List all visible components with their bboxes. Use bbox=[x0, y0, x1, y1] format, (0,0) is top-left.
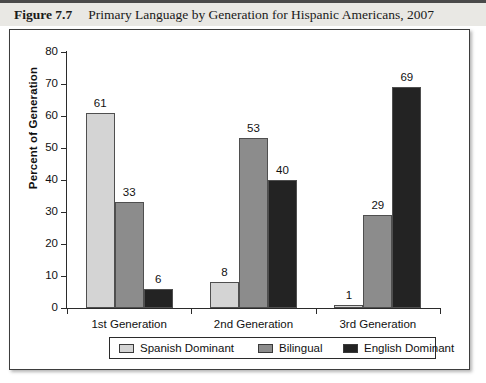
x-axis-tick bbox=[440, 309, 441, 314]
bar-value-label: 69 bbox=[384, 71, 429, 83]
figure-title: Primary Language by Generation for Hispa… bbox=[88, 7, 434, 22]
legend-label: Bilingual bbox=[279, 343, 322, 355]
x-axis-category-label: 1st Generation bbox=[67, 318, 191, 330]
y-axis-tick-label: 20 bbox=[28, 238, 58, 250]
y-axis-tick-label: 60 bbox=[28, 110, 58, 122]
bar bbox=[144, 289, 173, 308]
figure-caption-text: Figure 7.7Primary Language by Generation… bbox=[14, 7, 434, 23]
y-axis-tick-label: 40 bbox=[28, 174, 58, 186]
bar-value-label: 53 bbox=[231, 122, 276, 134]
legend-color-swatch bbox=[119, 344, 134, 353]
y-axis-tick-label: 70 bbox=[28, 78, 58, 90]
bar-value-label: 40 bbox=[260, 164, 305, 176]
bar bbox=[334, 305, 363, 308]
bar bbox=[210, 282, 239, 308]
legend-color-swatch bbox=[258, 344, 273, 353]
legend-entry[interactable]: English Dominant bbox=[343, 341, 454, 356]
bar bbox=[115, 202, 144, 308]
plot-area: 613368534012969 bbox=[67, 52, 440, 308]
chart-legend: Spanish DominantBilingualEnglish Dominan… bbox=[109, 337, 436, 359]
x-axis-tick bbox=[191, 309, 192, 314]
bar bbox=[86, 113, 115, 308]
x-axis-tick bbox=[67, 309, 68, 314]
y-axis-tick-label: 30 bbox=[28, 206, 58, 218]
y-axis-tick-label: 0 bbox=[28, 302, 58, 314]
x-axis-category-label: 2nd Generation bbox=[191, 318, 315, 330]
legend-label: English Dominant bbox=[364, 343, 454, 355]
bar bbox=[363, 215, 392, 308]
bar bbox=[268, 180, 297, 308]
legend-label: Spanish Dominant bbox=[140, 343, 234, 355]
figure-number: Figure 7.7 bbox=[14, 7, 72, 22]
bar-value-label: 61 bbox=[78, 97, 123, 109]
figure-caption-bar: Figure 7.7Primary Language by Generation… bbox=[0, 0, 486, 26]
y-axis-tick-label: 80 bbox=[28, 46, 58, 58]
x-axis-tick bbox=[316, 309, 317, 314]
legend-entry[interactable]: Spanish Dominant bbox=[119, 341, 234, 356]
bar bbox=[392, 87, 421, 308]
bar-value-label: 6 bbox=[136, 273, 181, 285]
y-axis-tick-label: 50 bbox=[28, 142, 58, 154]
legend-color-swatch bbox=[343, 344, 358, 353]
bar-value-label: 33 bbox=[107, 186, 152, 198]
x-axis-category-label: 3rd Generation bbox=[316, 318, 440, 330]
chart-frame: Percent of Generation 01020304050607080 … bbox=[9, 29, 470, 370]
legend-entry[interactable]: Bilingual bbox=[258, 341, 322, 356]
y-axis-tick-label: 10 bbox=[28, 270, 58, 282]
x-axis-line bbox=[66, 308, 441, 309]
